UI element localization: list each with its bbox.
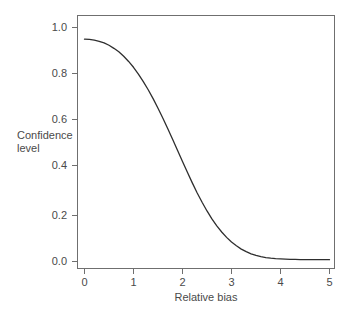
- chart-figure: 1.0 0.8 0.6 0.4 0.2 0.0 0 1 2 3 4 5 Co: [0, 0, 351, 315]
- x-tick-label-1: 1: [130, 276, 136, 288]
- y-tick-label-1_0: 1.0: [52, 21, 67, 33]
- x-tick-label-4: 4: [277, 276, 283, 288]
- x-tick-label-0: 0: [81, 276, 87, 288]
- x-tick-label-2: 2: [179, 276, 185, 288]
- y-axis-title-line1: Confidence: [17, 129, 73, 141]
- chart-background: [0, 0, 351, 315]
- y-tick-label-0_4: 0.4: [52, 159, 67, 171]
- y-tick-label-0_2: 0.2: [52, 209, 67, 221]
- y-tick-label-0_8: 0.8: [52, 67, 67, 79]
- x-tick-label-3: 3: [228, 276, 234, 288]
- x-tick-label-5: 5: [326, 276, 332, 288]
- x-axis-title: Relative bias: [175, 291, 238, 303]
- chart-svg: 1.0 0.8 0.6 0.4 0.2 0.0 0 1 2 3 4 5 Co: [0, 0, 351, 315]
- y-tick-label-0_6: 0.6: [52, 113, 67, 125]
- y-tick-label-0_0: 0.0: [52, 255, 67, 267]
- y-axis-title-line2: level: [17, 142, 40, 154]
